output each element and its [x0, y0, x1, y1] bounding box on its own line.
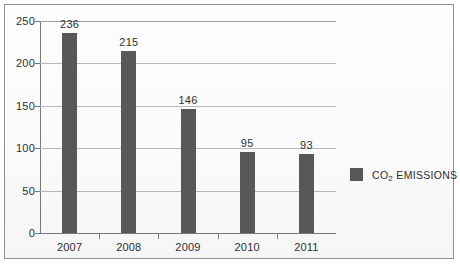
y-axis-tick-mark [35, 191, 40, 192]
chart-legend: CO2 EMISSIONS [350, 168, 457, 181]
y-axis-tick-mark [35, 106, 40, 107]
x-axis-tick-label: 2007 [57, 241, 82, 253]
x-axis-tick-mark [99, 234, 100, 239]
bar [121, 51, 136, 233]
gridline [40, 63, 336, 64]
y-axis-tick-label: 200 [7, 57, 35, 69]
y-axis-tick-mark [35, 233, 40, 234]
x-axis-tick-label: 2010 [235, 241, 260, 253]
bar-value-label: 146 [179, 94, 198, 106]
bar [62, 33, 77, 233]
legend-label: CO2 EMISSIONS [372, 169, 457, 181]
x-axis-tick-mark [158, 234, 159, 239]
y-axis-tick-label: 150 [7, 100, 35, 112]
x-axis-tick-mark [277, 234, 278, 239]
x-axis-tick-mark [218, 234, 219, 239]
y-axis-tick-label: 0 [7, 227, 35, 239]
y-axis-tick-label: 50 [7, 185, 35, 197]
x-axis-tick-label: 2008 [116, 241, 141, 253]
bar [240, 152, 255, 233]
bar-value-label: 215 [119, 36, 138, 48]
y-axis-tick-mark [35, 21, 40, 22]
legend-label-subscript: 2 [388, 174, 393, 183]
chart-frame: 050100150200250 2362151469593 CO2 EMISSI… [4, 4, 454, 259]
gridline [40, 21, 336, 22]
bar-value-label: 236 [60, 18, 79, 30]
bar-value-label: 95 [241, 137, 254, 149]
legend-color-swatch [350, 168, 363, 181]
x-axis-tick-label: 2011 [294, 241, 318, 253]
bar-value-label: 93 [300, 139, 313, 151]
y-axis-tick-mark [35, 148, 40, 149]
x-axis-tick-label: 2009 [175, 241, 200, 253]
y-axis-labels: 050100150200250 [5, 5, 35, 265]
bar [299, 154, 314, 233]
bar [181, 109, 196, 233]
y-axis-tick-label: 250 [7, 15, 35, 27]
plot-area: 2362151469593 [40, 21, 336, 233]
y-axis-tick-mark [35, 63, 40, 64]
x-axis-line [40, 233, 336, 234]
y-axis-tick-label: 100 [7, 142, 35, 154]
